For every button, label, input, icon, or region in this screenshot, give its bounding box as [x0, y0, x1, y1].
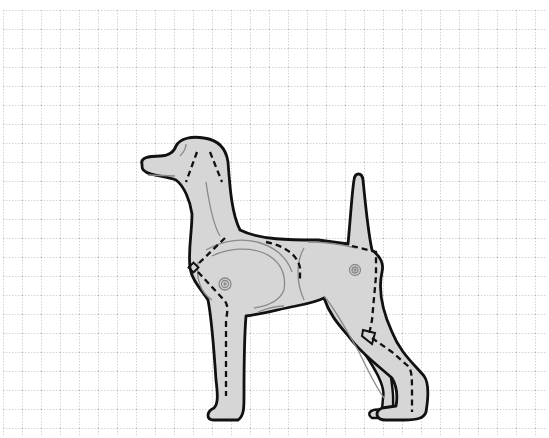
dog-diagram-canvas: Dog body outline on grid with dashed cut…	[0, 0, 549, 438]
grid-background	[3, 10, 546, 437]
dog-diagram	[0, 0, 549, 438]
